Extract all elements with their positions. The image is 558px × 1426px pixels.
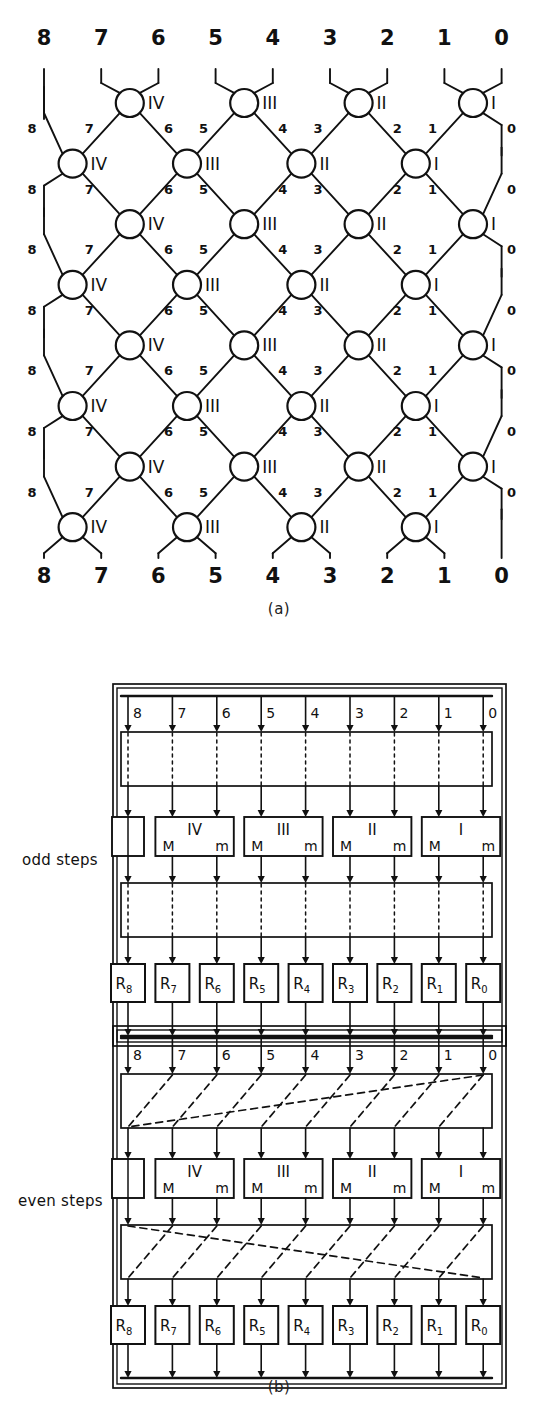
network-wire [140,83,159,93]
network-node-label: I [434,517,439,537]
bus-drop-arrow-head [302,1067,309,1074]
module-input-arrow-head [480,1152,487,1159]
bus-index-label: 6 [222,705,231,721]
even-steps-block: 876543210IVMmIIIMmIIMmIMmR8R7R6R5R4R3R2R… [111,1026,506,1388]
network-node-label: IV [91,396,108,416]
crossbar-input-arrow-head [169,1218,176,1225]
network-node-label: II [377,335,387,355]
network-top-label: 0 [494,26,509,50]
crossbar-input-arrow-head [302,1218,309,1225]
crossbar-input-arrow-head [346,1218,353,1225]
network-edge-label: 7 [85,303,94,318]
input-crossbar [121,732,492,786]
network-edge-label: 2 [393,485,402,500]
network-edge-label: 1 [428,121,437,136]
register-input-arrow-head [302,1299,309,1306]
network-edge-label: 0 [507,424,516,439]
bus-index-label: 0 [488,705,497,721]
network-node-label: III [205,154,220,174]
crossbar-input-arrow-head [124,876,131,883]
register-input-arrow-head [258,1299,265,1306]
network-edge-label: 0 [507,242,516,257]
network-top-label: 4 [265,26,280,50]
module-input-arrow-head [346,810,353,817]
register-input-arrow-head [435,957,442,964]
comparator-max-label: M [340,838,352,854]
register-subscript: 3 [348,1326,354,1337]
comparator-module-name: I [459,1163,463,1181]
network-edge-label: 1 [428,242,437,257]
network-edge-label: 8 [27,242,36,257]
register-input-arrow-head [258,957,265,964]
register-subscript: 2 [392,1326,398,1337]
comparator-module-name: III [277,1163,290,1181]
network-node-label: II [319,396,329,416]
network-node-label: I [491,214,496,234]
crossbar-input-arrow-head [391,1218,398,1225]
network-edge-label: 3 [313,485,322,500]
network-node-label: I [491,93,496,113]
network-edge-label: 6 [164,485,173,500]
network-edge-label: 7 [85,121,94,136]
network-top-label: 5 [208,26,223,50]
crossbar-input-arrow-head [391,876,398,883]
comparator-min-label: m [304,1180,318,1196]
bus-index-label: 1 [444,705,453,721]
network-wire [101,83,120,93]
network-top-label: 7 [94,26,109,50]
register-input-arrow-head [480,957,487,964]
network-wire [483,355,502,367]
network-edge-label: 7 [85,182,94,197]
register-input-arrow-head [391,957,398,964]
crossbar-path [128,1075,172,1127]
bus-index-label: 3 [355,705,364,721]
register-subscript: 8 [126,1326,132,1337]
module-input-arrow-head [124,1152,131,1159]
network-edge-label: 2 [393,363,402,378]
odd-steps-block: 876543210IVMmIIIMmIIMmIMmR8R7R6R5R4R3R2R… [111,684,506,1046]
network-node-label: II [377,214,387,234]
bus-drop-arrow-head [346,725,353,732]
network-bottom-label: 5 [208,564,223,588]
network-node-label: I [434,275,439,295]
network-edge-label: 2 [393,242,402,257]
network-wire [369,83,388,93]
module-input-arrow-head [213,1152,220,1159]
network-edge-label: 0 [507,485,516,500]
comparator-max-label: M [162,838,174,854]
network-node-label: II [377,93,387,113]
crossbar-path [261,1226,305,1278]
network-wire [483,416,502,457]
comparator-module-name: IV [187,1163,202,1181]
network-node-label: II [319,275,329,295]
crossbar-path [217,1075,261,1127]
network-node-label: III [262,457,277,477]
crossbar-input-arrow-head [169,876,176,883]
network-edge-label: 3 [313,303,322,318]
network-edge-label: 8 [27,485,36,500]
network-edge-label: 6 [164,242,173,257]
bus-index-label: 7 [177,705,186,721]
bus-drop-arrow-head [213,725,220,732]
network-edge-label: 6 [164,363,173,378]
register-subscript: 7 [170,1326,176,1337]
network-wire [44,174,63,186]
network-top-label: 8 [37,26,52,50]
register-input-arrow-head [124,1299,131,1306]
module-input-arrow-head [124,810,131,817]
bus-index-label: 6 [222,1047,231,1063]
network-edge-label: 4 [278,242,287,257]
network-top-label: 2 [380,26,395,50]
network-wire [44,537,63,553]
block-diagram-svg: 876543210IVMmIIIMmIIMmIMmR8R7R6R5R4R3R2R… [0,660,558,1420]
crossbar-input-arrow-head [435,1218,442,1225]
bus-drop-arrow-head [169,725,176,732]
network-node-label: III [205,396,220,416]
comparator-max-label: M [162,1180,174,1196]
module-input-arrow-head [213,810,220,817]
network-edge-label: 4 [278,121,287,136]
register-input-arrow-head [213,957,220,964]
bus-index-label: 0 [488,1047,497,1063]
register-input-arrow-head [213,1299,220,1306]
register-subscript: 8 [126,984,132,995]
